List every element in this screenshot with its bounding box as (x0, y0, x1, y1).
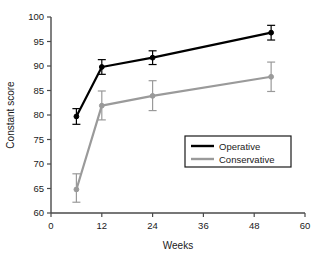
x-tick-label: 36 (198, 220, 209, 231)
legend-label-0: Operative (219, 141, 260, 152)
x-tick-label: 48 (249, 220, 260, 231)
data-point[interactable] (74, 187, 79, 192)
y-tick-label: 75 (33, 134, 44, 145)
data-point[interactable] (269, 30, 274, 35)
x-tick-label: 60 (300, 220, 311, 231)
y-tick-label: 60 (33, 207, 44, 218)
x-tick-label: 24 (147, 220, 158, 231)
x-axis-title: Weeks (163, 240, 193, 251)
data-point[interactable] (269, 74, 274, 79)
chart-background (0, 0, 321, 257)
y-axis-title: Constant score (5, 81, 16, 149)
data-point[interactable] (99, 103, 104, 108)
data-point[interactable] (74, 114, 79, 119)
y-tick-label: 100 (28, 11, 44, 22)
y-tick-label: 65 (33, 183, 44, 194)
chart-figure: 6065707580859095100 01224364860 Weeks Co… (0, 0, 321, 257)
chart-legend[interactable]: OperativeConservative (185, 136, 291, 167)
y-tick-label: 90 (33, 60, 44, 71)
y-tick-label: 80 (33, 109, 44, 120)
data-point[interactable] (99, 65, 104, 70)
y-tick-label: 70 (33, 158, 44, 169)
x-tick-label: 12 (97, 220, 108, 231)
data-point[interactable] (150, 93, 155, 98)
y-tick-label: 95 (33, 36, 44, 47)
legend-label-1: Conservative (219, 154, 274, 165)
x-tick-label: 0 (48, 220, 53, 231)
y-tick-label: 85 (33, 85, 44, 96)
data-point[interactable] (150, 55, 155, 60)
constant-score-line-chart: 6065707580859095100 01224364860 Weeks Co… (0, 0, 321, 257)
